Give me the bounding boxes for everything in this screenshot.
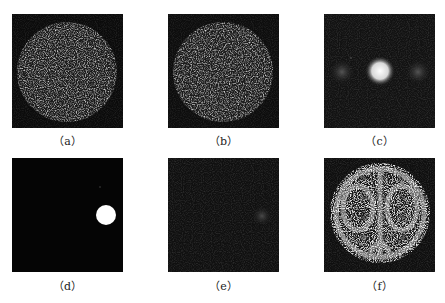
caption-e: （e） (168, 277, 279, 293)
panel-b-image (168, 14, 279, 128)
caption-f: （f） (324, 277, 435, 293)
panel-c-image (324, 14, 435, 128)
panel-d-image (12, 158, 123, 272)
panel-e-image (168, 158, 279, 272)
caption-c: （c） (324, 132, 435, 148)
panel-a-image (12, 14, 123, 128)
panel-f-image (324, 158, 435, 272)
caption-d: （d） (12, 277, 123, 293)
caption-b: （b） (168, 132, 279, 148)
caption-a: （a） (12, 132, 123, 148)
